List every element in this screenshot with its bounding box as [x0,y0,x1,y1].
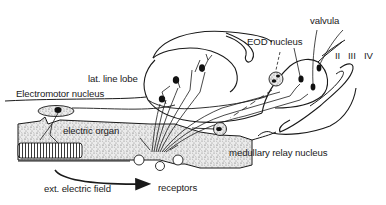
label-eod-nucleus: EOD nucleus [247,37,302,47]
label-electromotor-nucleus: Electromotor nucleus [16,89,104,99]
electric-organ-shape [18,143,82,158]
eod-nucleus-shape [269,72,283,86]
label-roman-iii: III [348,51,356,61]
valvula-shape [252,40,356,140]
label-receptors: receptors [158,183,197,193]
label-medullary-relay-nucleus: medullary relay nucleus [229,148,327,158]
label-roman-iv: IV [364,51,373,61]
label-valvula: valvula [310,16,339,26]
label-electric-organ: electric organ [63,126,119,136]
label-roman-ii: II [335,51,340,61]
electrosensory-pathway-diagram: valvula EOD nucleus lat. line lobe Elect… [0,0,386,205]
label-lat-line-lobe: lat. line lobe [88,74,138,84]
electric-field-arrow [55,170,148,184]
neurons [159,64,322,102]
diagram-drawing [0,0,386,205]
label-ext-electric-field: ext. electric field [44,184,111,194]
